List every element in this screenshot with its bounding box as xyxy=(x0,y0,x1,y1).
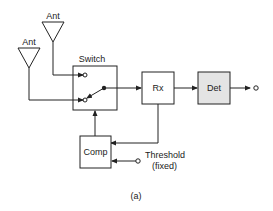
switch-contact-2 xyxy=(83,98,87,102)
figure-caption: (a) xyxy=(131,191,142,201)
switch-block: Switch xyxy=(73,54,117,110)
receiver-label: Rx xyxy=(153,83,164,93)
antenna-icon xyxy=(42,22,64,42)
antenna-2-label: Ant xyxy=(46,11,60,21)
antenna-1-label: Ant xyxy=(22,37,36,47)
switch-label: Switch xyxy=(79,54,106,64)
antenna-2: Ant xyxy=(42,11,64,42)
comparator-label: Comp xyxy=(83,147,107,157)
antenna-1: Ant xyxy=(18,37,40,68)
detector-label: Det xyxy=(207,83,222,93)
antenna-icon xyxy=(18,48,40,68)
antenna-switching-diagram: Ant Ant Switch Rx Det Comp xyxy=(0,0,273,211)
switch-contact-1 xyxy=(83,73,87,77)
comparator-block: Comp xyxy=(80,136,111,168)
threshold-sublabel: (fixed) xyxy=(152,161,177,171)
output-terminal xyxy=(254,86,258,90)
receiver-block: Rx xyxy=(142,72,174,104)
rx-to-comp xyxy=(111,104,158,143)
threshold-label: Threshold xyxy=(145,150,185,160)
detector-block: Det xyxy=(198,72,230,104)
threshold-terminal xyxy=(136,159,140,163)
